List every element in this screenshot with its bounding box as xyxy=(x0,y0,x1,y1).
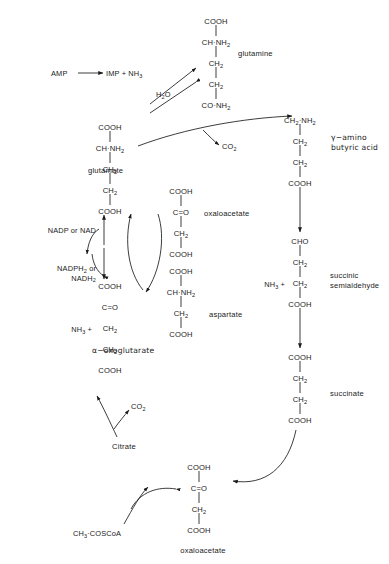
oxoglutarate-atom-4: COOH xyxy=(98,367,121,375)
co2-citrate-label: CO2 xyxy=(131,402,146,411)
oxaloacetate-bottom-atom-0: COOH xyxy=(187,464,210,472)
nadp-or-nad-label: NADP or NAD xyxy=(48,226,96,235)
aspartate-atom-0: COOH xyxy=(169,268,192,276)
ammonia-ssa-label: NH3 + xyxy=(264,280,285,289)
alpha-oxoglutarate-label: α−oxoglutarate xyxy=(92,346,154,355)
oxoglutarate-atom-1: C=O xyxy=(102,304,118,312)
gaba-atom-2: CH2 xyxy=(293,159,308,167)
citrate-to-oxoglutarate-arrow xyxy=(97,396,117,437)
oxaloacetate-mid-atom-3: COOH xyxy=(169,251,192,259)
oxaloacetate-bottom-atom-1: C=O xyxy=(191,485,207,493)
oxaloacetate-mid-atom-1: C=O xyxy=(173,209,189,217)
transamination-arrow-down xyxy=(146,214,162,292)
aspartate-atom-1: CH·NH2 xyxy=(167,289,196,297)
co2-citrate-arrow xyxy=(114,410,129,429)
gaba-label: γ−aminobutyric acid xyxy=(331,133,378,153)
gaba-atom-1: CH2 xyxy=(293,138,308,146)
glutamine-atom-0: COOH xyxy=(204,18,227,26)
succinate-to-oxaloacetate-arrow xyxy=(233,430,296,482)
oxaloacetate-bottom-atom-3: COOH xyxy=(187,527,210,535)
water-label: H2O xyxy=(156,90,171,99)
acetyl-coa-to-citrate-arrow xyxy=(124,487,148,524)
succinate-atom-3: COOH xyxy=(288,417,311,425)
glutamate-atom-1: CH·NH2 xyxy=(96,145,125,153)
transamination-arrow-up xyxy=(128,214,143,290)
succinate-atom-2: CH2 xyxy=(293,396,308,404)
pathway-diagram: COOH CH·NH2 CH2 CH2 CO·NH2 glutamine AMP… xyxy=(0,0,389,564)
oxoglutarate-atom-0: COOH xyxy=(98,283,121,291)
succinate-atom-1: CH2 xyxy=(293,375,308,383)
glutamine-atom-1: CH·NH2 xyxy=(202,39,231,47)
amp-label: AMP xyxy=(51,69,67,78)
glutamine-label: glutamine xyxy=(238,49,273,58)
glutamate-atom-3: CH2 xyxy=(103,187,118,195)
ssa-atom-1: CH2 xyxy=(293,259,308,267)
ammonia-oxoglutarate-label: NH3 + xyxy=(71,325,92,334)
aspartate-atom-3: COOH xyxy=(169,331,192,339)
oxaloacetate-middle-label: oxaloacetate xyxy=(204,209,249,218)
succinate-label: succinate xyxy=(330,389,364,398)
imp-nh3-label: IMP + NH3 xyxy=(106,69,143,78)
glutamine-atom-2: CH2 xyxy=(209,60,224,68)
aspartate-label: aspartate xyxy=(209,310,242,319)
acetyl-coa-label: CH3·COSCoA xyxy=(73,529,121,538)
oxaloacetate-bottom-label: oxaloacetate xyxy=(180,546,225,555)
oxaloacetate-bottom-atom-2: CH2 xyxy=(192,506,207,514)
gaba-atom-0: CH2·NH2 xyxy=(284,117,316,125)
glutamine-atom-4: CO·NH2 xyxy=(202,102,231,110)
ssa-atom-3: COOH xyxy=(288,301,311,309)
oxoglutarate-atom-2: CH2 xyxy=(103,325,118,333)
succinic-semialdehyde-label: succinicsemialdehyde xyxy=(330,271,379,291)
citrate-label: Citrate xyxy=(112,442,136,451)
co2-decarboxylation-label: CO2 xyxy=(222,142,237,151)
oxaloacetate-mid-atom-0: COOH xyxy=(169,188,192,196)
oxaloacetate-mid-atom-2: CH2 xyxy=(174,230,189,238)
ssa-atom-2: CH2 xyxy=(293,280,308,288)
glutamine-atom-3: CH2 xyxy=(209,81,224,89)
co2-decarboxylation-arrow xyxy=(203,130,219,145)
glutamate-atom-4: COOH xyxy=(98,208,121,216)
ssa-atom-0: CHO xyxy=(291,238,308,246)
gaba-atom-3: COOH xyxy=(288,180,311,188)
succinate-atom-0: COOH xyxy=(288,354,311,362)
nadph2-or-nadh2-label: NADPH2 orNADH2 xyxy=(57,264,96,283)
aspartate-atom-2: CH2 xyxy=(174,310,189,318)
oxaloacetate-to-citrate-arrow xyxy=(131,488,176,509)
glutamate-label: glutamate xyxy=(88,166,123,175)
glutamate-atom-0: COOH xyxy=(98,124,121,132)
